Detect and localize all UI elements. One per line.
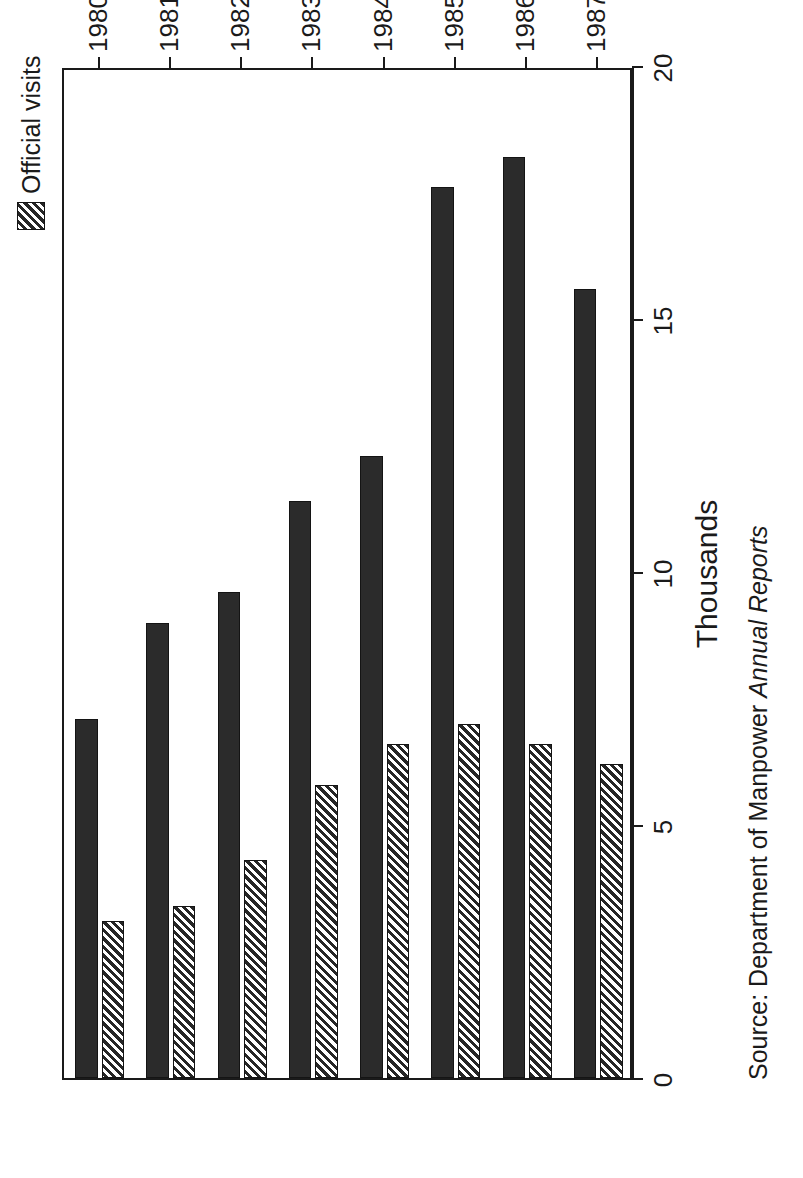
category-tick-label: 1985 — [439, 0, 470, 52]
bar-group — [207, 70, 278, 1078]
value-tick-label: 0 — [648, 1050, 679, 1110]
legend-label: Official visits — [17, 56, 46, 194]
category-tick — [383, 57, 385, 68]
bar-official-visits — [529, 744, 551, 1078]
category-tick — [596, 57, 598, 68]
legend-item: Factory inspections — [0, 0, 8, 230]
rotated-figure-wrapper: 05101520 Thousands 198019811982198319841… — [0, 0, 803, 1178]
value-tick — [632, 319, 643, 321]
bar-group — [492, 70, 563, 1078]
plot-frame — [62, 68, 632, 1080]
value-tick-label: 5 — [648, 797, 679, 857]
bar-factory-inspections — [146, 623, 168, 1078]
category-tick — [240, 57, 242, 68]
category-tick-label: 1981 — [154, 0, 185, 52]
value-axis-title: Thousands — [690, 68, 724, 1080]
category-tick — [311, 57, 313, 68]
bar-official-visits — [244, 860, 266, 1078]
bar-factory-inspections — [431, 187, 453, 1078]
bar-factory-inspections — [218, 592, 240, 1078]
category-tick-label: 1987 — [581, 0, 612, 52]
bar-official-visits — [315, 785, 337, 1078]
category-tick — [169, 57, 171, 68]
source-italic-title: Annual Reports — [744, 526, 772, 698]
hatched-swatch — [17, 202, 45, 230]
bar-factory-inspections — [75, 719, 97, 1078]
chart-legend: Factory inspectionsOfficial visits — [8, 0, 54, 230]
category-tick-label: 1980 — [83, 0, 114, 52]
value-tick — [632, 66, 643, 68]
bar-factory-inspections — [574, 289, 596, 1078]
bar-official-visits — [387, 744, 409, 1078]
source-note: Source: Department of Manpower Annual Re… — [744, 526, 773, 1080]
bar-group — [563, 70, 634, 1078]
value-tick — [632, 1078, 643, 1080]
bar-factory-inspections — [360, 456, 382, 1078]
value-tick-label: 15 — [648, 291, 679, 351]
bar-chart-figure: 05101520 Thousands 198019811982198319841… — [0, 0, 803, 1178]
category-tick — [98, 57, 100, 68]
category-tick — [525, 57, 527, 68]
bar-factory-inspections — [289, 501, 311, 1078]
value-tick — [632, 825, 643, 827]
bar-official-visits — [600, 764, 622, 1078]
bar-official-visits — [458, 724, 480, 1078]
value-axis-line — [632, 68, 634, 1080]
legend-item: Official visits — [8, 56, 54, 230]
bar-factory-inspections — [503, 157, 525, 1078]
bar-official-visits — [173, 906, 195, 1078]
bar-group — [64, 70, 135, 1078]
bar-official-visits — [102, 921, 124, 1078]
value-tick-label: 20 — [648, 38, 679, 98]
value-tick-label: 10 — [648, 544, 679, 604]
category-tick — [454, 57, 456, 68]
bar-group — [349, 70, 420, 1078]
category-tick-label: 1986 — [510, 0, 541, 52]
category-tick-label: 1982 — [225, 0, 256, 52]
bar-group — [135, 70, 206, 1078]
bar-group — [420, 70, 491, 1078]
plot-area — [64, 70, 630, 1078]
bar-group — [278, 70, 349, 1078]
category-tick-label: 1983 — [296, 0, 327, 52]
source-prefix: Source: Department of Manpower — [744, 698, 772, 1080]
category-tick-label: 1984 — [368, 0, 399, 52]
value-tick — [632, 572, 643, 574]
